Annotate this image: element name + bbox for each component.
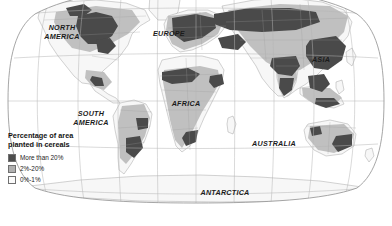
legend-label-2-to-20: 2%-20%	[20, 165, 44, 173]
legend-label-0-to-1: 0%-1%	[20, 176, 41, 184]
map-legend: Percentage of area planted in cereals Mo…	[8, 131, 104, 185]
map-body	[0, 0, 392, 220]
legend-item-high: More than 20%	[8, 153, 104, 163]
cereal-area-map-figure: NORTH AMERICA EUROPE ASIA AFRICA SOUTH A…	[0, 0, 392, 226]
legend-swatch-0-to-1	[8, 176, 16, 184]
legend-label-more-than-20: More than 20%	[20, 154, 63, 162]
legend-title: Percentage of area planted in cereals	[8, 131, 104, 150]
legend-item-mid: 2%-20%	[8, 164, 104, 174]
legend-swatch-2-to-20	[8, 165, 16, 173]
world-map: NORTH AMERICA EUROPE ASIA AFRICA SOUTH A…	[0, 0, 392, 226]
legend-swatch-more-than-20	[8, 154, 16, 162]
legend-item-low: 0%-1%	[8, 175, 104, 185]
world-map-svg	[0, 0, 392, 226]
